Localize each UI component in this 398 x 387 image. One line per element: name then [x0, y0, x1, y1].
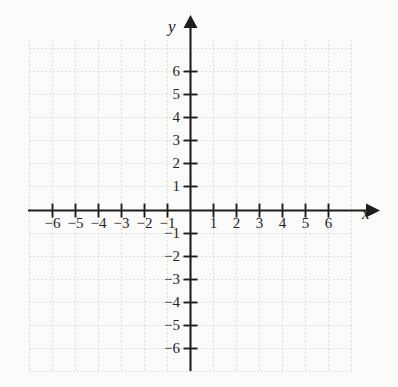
y-tick-label-2: 2	[162, 156, 180, 171]
y-axis-arrowhead	[184, 15, 198, 28]
x-tick-label--6: −6	[40, 216, 65, 231]
y-tick-label-4: 4	[162, 110, 180, 125]
y-tick-label--2: −2	[156, 249, 180, 264]
x-tick-label-2: 2	[227, 216, 246, 231]
x-tick-label--4: −4	[86, 216, 111, 231]
y-tick-label--5: −5	[156, 318, 180, 333]
x-tick-label-6: 6	[319, 216, 338, 231]
x-tick-label-5: 5	[296, 216, 315, 231]
y-tick-label-1: 1	[162, 179, 180, 194]
coordinate-plane: −6 −5 −4 −3 −2 −1 1 2 3 4 5 6 6 5 4 3 2 …	[0, 0, 398, 387]
y-tick-label-3: 3	[162, 133, 180, 148]
x-tick-label--2: −2	[132, 216, 157, 231]
x-axis-label: x	[362, 205, 370, 222]
x-tick-label--3: −3	[109, 216, 134, 231]
y-tick-label--6: −6	[156, 341, 180, 356]
y-tick-label-6: 6	[162, 64, 180, 79]
x-tick-label-3: 3	[250, 216, 269, 231]
x-tick-label-1: 1	[204, 216, 223, 231]
y-tick-label-5: 5	[162, 87, 180, 102]
y-tick-label--4: −4	[156, 295, 180, 310]
x-tick-label-4: 4	[273, 216, 292, 231]
y-tick-label--3: −3	[156, 272, 180, 287]
y-axis-label: y	[168, 18, 176, 35]
axes-group	[0, 0, 398, 387]
x-tick-label--5: −5	[63, 216, 88, 231]
y-tick-label--1: −1	[156, 226, 180, 241]
